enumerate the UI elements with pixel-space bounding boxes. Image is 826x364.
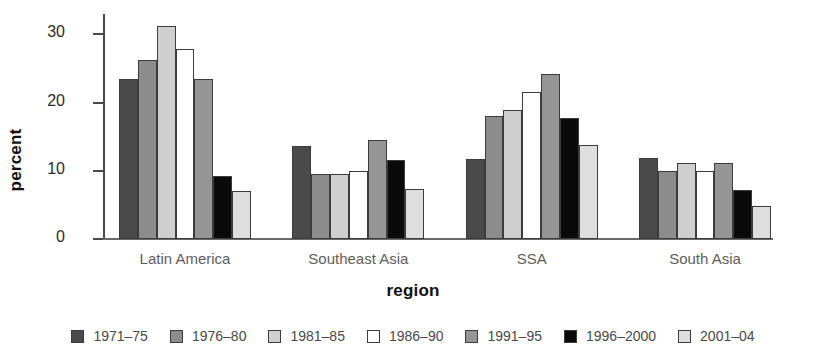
legend-label: 2001–04 xyxy=(700,328,755,344)
bar[interactable] xyxy=(503,110,522,239)
bar[interactable] xyxy=(658,171,677,239)
bar[interactable] xyxy=(232,191,251,239)
bar[interactable] xyxy=(157,26,176,239)
legend-swatch-icon xyxy=(564,330,577,343)
bar[interactable] xyxy=(677,163,696,239)
bar[interactable] xyxy=(194,79,213,239)
chart-legend: 1971–751976–801981–851986–901991–951996–… xyxy=(0,328,826,344)
bar[interactable] xyxy=(176,49,195,239)
bar[interactable] xyxy=(485,116,504,239)
x-axis-title: region xyxy=(0,281,826,301)
legend-label: 1986–90 xyxy=(389,328,444,344)
legend-item[interactable]: 1991–95 xyxy=(465,328,542,344)
legend-swatch-icon xyxy=(170,330,183,343)
bar-group xyxy=(292,14,424,239)
bar[interactable] xyxy=(138,60,157,239)
bar-group xyxy=(119,14,251,239)
legend-label: 1991–95 xyxy=(487,328,542,344)
bar[interactable] xyxy=(733,190,752,239)
bar[interactable] xyxy=(387,160,406,239)
x-axis-tick-label: SSA xyxy=(436,250,628,267)
y-axis-tick-label: 20 xyxy=(13,92,65,110)
y-axis-tick xyxy=(93,238,103,240)
legend-swatch-icon xyxy=(465,330,478,343)
bar[interactable] xyxy=(560,118,579,239)
legend-item[interactable]: 1971–75 xyxy=(71,328,148,344)
bar[interactable] xyxy=(639,158,658,239)
bar[interactable] xyxy=(714,163,733,239)
bar[interactable] xyxy=(311,174,330,239)
bar[interactable] xyxy=(292,146,311,239)
bar[interactable] xyxy=(349,171,368,239)
x-axis-tick-label: Latin America xyxy=(89,250,281,267)
legend-swatch-icon xyxy=(268,330,281,343)
plot-area xyxy=(105,14,771,239)
bar[interactable] xyxy=(522,92,541,239)
y-axis-tick xyxy=(93,102,103,104)
bar[interactable] xyxy=(213,176,232,239)
bar[interactable] xyxy=(119,79,138,239)
legend-label: 1996–2000 xyxy=(586,328,656,344)
legend-item[interactable]: 2001–04 xyxy=(678,328,755,344)
y-axis-tick-label: 30 xyxy=(13,23,65,41)
bar[interactable] xyxy=(541,74,560,239)
bar[interactable] xyxy=(696,171,715,239)
legend-item[interactable]: 1986–90 xyxy=(367,328,444,344)
y-axis-tick-label: 0 xyxy=(13,228,65,246)
bar-chart-figure: percent 0102030 Latin AmericaSoutheast A… xyxy=(0,0,826,364)
bar[interactable] xyxy=(579,145,598,239)
legend-item[interactable]: 1996–2000 xyxy=(564,328,656,344)
legend-label: 1971–75 xyxy=(93,328,148,344)
bar-group xyxy=(639,14,771,239)
legend-swatch-icon xyxy=(367,330,380,343)
legend-item[interactable]: 1981–85 xyxy=(268,328,345,344)
bar[interactable] xyxy=(330,174,349,239)
bar[interactable] xyxy=(466,159,485,239)
y-axis-tick xyxy=(93,33,103,35)
bar[interactable] xyxy=(405,189,424,239)
bar-group xyxy=(466,14,598,239)
legend-swatch-icon xyxy=(71,330,84,343)
x-axis-tick-label: South Asia xyxy=(609,250,801,267)
y-axis-tick xyxy=(93,170,103,172)
legend-label: 1981–85 xyxy=(290,328,345,344)
legend-item[interactable]: 1976–80 xyxy=(170,328,247,344)
bar[interactable] xyxy=(368,140,387,239)
legend-label: 1976–80 xyxy=(192,328,247,344)
bar[interactable] xyxy=(752,206,771,239)
legend-swatch-icon xyxy=(678,330,691,343)
y-axis-ticks: 0102030 xyxy=(0,0,103,364)
x-axis-tick-label: Southeast Asia xyxy=(262,250,454,267)
y-axis-tick-label: 10 xyxy=(13,160,65,178)
